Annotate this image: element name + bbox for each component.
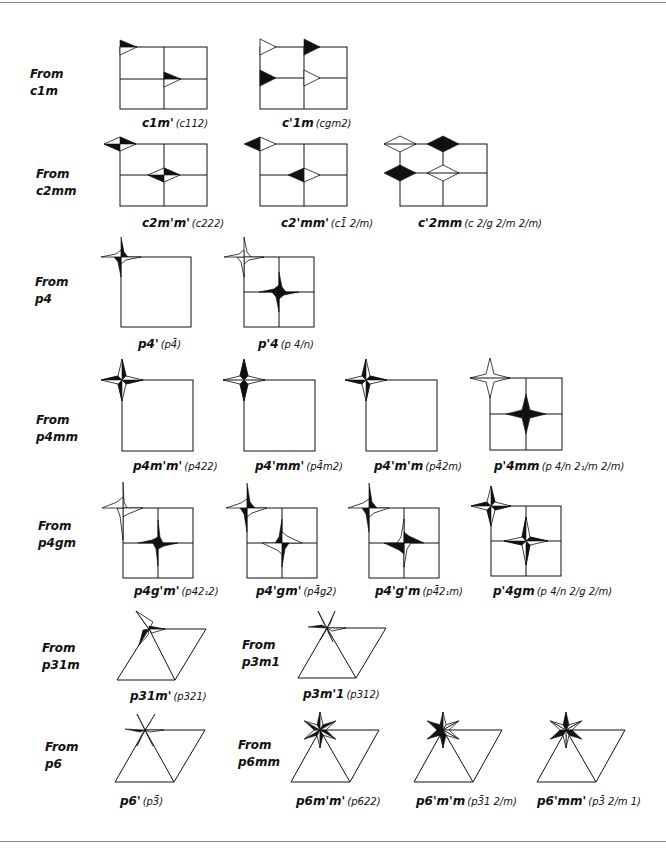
pinwheel-blade-black	[279, 292, 299, 299]
pinwheel-blade-white	[262, 543, 282, 554]
diamond-half-black	[288, 168, 304, 182]
figure-p6-prime-mm-prime	[537, 712, 625, 782]
star-facet-black	[345, 380, 366, 384]
diamond-quarter-black	[120, 137, 136, 144]
flag-white	[260, 39, 276, 55]
figure-p4-prime-g-prime-m	[348, 483, 439, 578]
three-point-star	[308, 611, 346, 642]
flag-white	[304, 70, 320, 86]
star-facet-black	[504, 541, 526, 545]
star-facet-white	[149, 629, 165, 633]
diamond-quarter-black	[104, 144, 120, 151]
blade-white	[137, 714, 145, 730]
star-facet-black	[366, 376, 387, 380]
unit-cell	[122, 380, 193, 451]
blade-black	[145, 730, 153, 746]
pinwheel-blade-white	[117, 508, 123, 540]
figure-p4-prime-gm-prime	[226, 483, 317, 578]
flag-black-half	[120, 40, 137, 47]
figure-p3m-prime-1	[298, 611, 386, 678]
cell-diagonal	[443, 730, 473, 782]
diamond-quarter-black	[164, 168, 180, 175]
star-facet-black	[149, 626, 165, 629]
pinwheel-blade-white	[224, 250, 244, 257]
pinwheel-blade-black	[138, 537, 158, 543]
six-point-pinwheel	[125, 714, 164, 746]
four-point-star	[101, 359, 143, 401]
figure-c2-prime-mm-prime	[244, 137, 347, 206]
diamond-black	[384, 165, 416, 181]
pinwheel-blade-white	[101, 250, 121, 257]
figure-p4-prime-m-prime-m	[345, 359, 437, 451]
figure-p4m-prime-m-prime	[101, 359, 193, 451]
figure-p-prime-4gm	[471, 486, 561, 576]
pinwheel-blade-black	[121, 237, 128, 257]
figure-p6-prime	[115, 714, 205, 782]
star-facet-black	[118, 380, 122, 401]
pinwheel-blade-black	[279, 272, 286, 292]
four-point-star	[345, 359, 387, 401]
figure-p31m-prime	[117, 611, 206, 680]
figure-c-prime-1m	[260, 39, 347, 109]
star-facet-black	[526, 537, 548, 541]
star-facet-black	[122, 380, 143, 384]
pinwheel-blade-white	[247, 508, 267, 517]
star-facet-black	[526, 541, 530, 565]
blade-black	[145, 714, 155, 730]
star-facet-white	[327, 628, 346, 631]
pinwheel-blade-white	[282, 532, 302, 543]
pinwheel-blade-white	[348, 499, 369, 508]
pinwheel-blade-black	[362, 508, 369, 532]
figure-p6-prime-m-prime-m	[414, 712, 502, 782]
figure-p-prime-4	[224, 237, 314, 327]
star-facet-black	[522, 517, 526, 541]
star-facet-white	[320, 628, 327, 640]
flag-black	[304, 39, 320, 55]
three-point-star	[136, 611, 165, 645]
pinwheel-blade-white	[404, 543, 411, 567]
flag-white-half	[120, 47, 137, 55]
figure-p4-prime-mm-prime	[223, 359, 315, 451]
pinwheel-blade-white	[121, 257, 141, 264]
blade-black	[125, 729, 145, 732]
figure-p6m-prime-m-prime	[291, 712, 379, 782]
pinwheel-blade-white	[123, 508, 143, 517]
cell-diagonal	[320, 730, 350, 782]
diamond-black	[427, 136, 459, 152]
pinwheel-blade-white	[244, 237, 251, 257]
figure-p4-prime	[101, 237, 191, 327]
quartered-diamond	[148, 168, 180, 182]
star-facet-black	[491, 486, 495, 506]
diamond-half-black	[244, 137, 260, 151]
star-facet-black	[101, 376, 122, 380]
cell-diagonal	[327, 628, 356, 678]
diamond-half-white	[304, 168, 320, 182]
diamond-half-white	[260, 137, 276, 151]
four-point-star	[223, 359, 265, 401]
star-facet-black	[122, 359, 126, 380]
pinwheel-blade-black	[275, 519, 282, 543]
figure-c1m-prime	[120, 40, 207, 109]
pinwheel-blade-white	[237, 257, 244, 277]
pinwheel-blade-black	[240, 508, 247, 532]
pinwheel-blade-black	[369, 483, 377, 508]
pinwheel-blade-white	[102, 497, 123, 508]
star-black	[506, 394, 546, 434]
pinwheel-blade-white	[369, 508, 389, 517]
pinwheel-blade-white	[123, 482, 127, 508]
star-facet-black	[491, 506, 511, 510]
flag-black-half	[164, 72, 181, 79]
pinwheel-blade-white	[244, 257, 264, 264]
pinwheel-blade-black	[404, 532, 424, 543]
figure-c-prime-2mm	[384, 136, 487, 206]
pinwheel-blade-white	[397, 519, 404, 543]
pinwheel-blade-black	[384, 543, 404, 554]
flag-black	[260, 70, 276, 86]
star-facet-black	[327, 611, 335, 628]
star-facet-black	[366, 380, 370, 401]
figure-c2m-prime-m-prime	[104, 137, 207, 206]
unit-cell	[366, 380, 437, 451]
cell-diagonal	[149, 629, 175, 680]
pinwheel-blade-black	[114, 257, 121, 277]
star-facet-black	[308, 625, 327, 628]
